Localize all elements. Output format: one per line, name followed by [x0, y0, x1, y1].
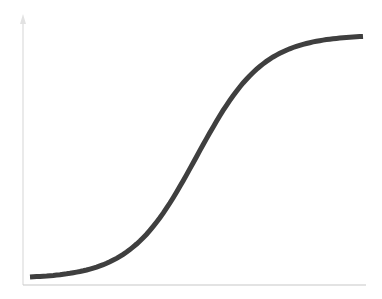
y-axis-arrow-icon — [20, 14, 26, 24]
sigmoid-curve — [30, 36, 363, 277]
sigmoid-chart — [0, 0, 382, 299]
